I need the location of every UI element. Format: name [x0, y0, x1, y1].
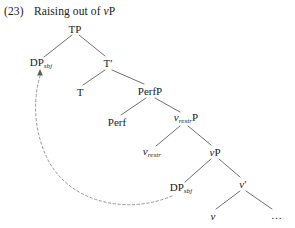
node-t: T	[77, 86, 84, 98]
branch-vp-dpsbj	[185, 159, 211, 182]
syntax-tree-diagram: TP DPsbj T′ T PerfP Perf vrestrP vrestr …	[0, 0, 295, 228]
branch-vbar-v	[216, 191, 240, 209]
node-v-bar: v′	[239, 178, 246, 190]
node-v-bar-prime: ′	[244, 178, 246, 190]
branch-perfp-perf	[121, 98, 146, 115]
node-t-label: T	[77, 86, 84, 98]
node-dp-upper-subscript: sbj	[44, 62, 52, 70]
node-v-head: v	[211, 210, 216, 222]
branch-perfp-vrestrp	[155, 98, 180, 112]
node-perfp: PerfP	[138, 85, 162, 97]
node-dp-sbj-upper: DPsbj	[30, 56, 53, 72]
node-ellipsis: …	[271, 209, 283, 221]
node-perf-label: Perf	[108, 116, 126, 128]
branch-vbar-ellipsis	[246, 191, 272, 209]
node-dp-upper-label: DP	[30, 56, 44, 68]
node-v-restr-p: vrestrP	[174, 111, 198, 127]
branch-tbar-perfp	[112, 70, 144, 84]
tree-branch-lines	[0, 0, 295, 228]
node-perfp-label: PerfP	[138, 85, 162, 97]
branch-tp-dpsbj	[44, 35, 72, 57]
node-v-restr-p-subscript: restr	[179, 117, 192, 125]
node-perf: Perf	[108, 116, 126, 128]
node-dp-sbj-lower: DPsbj	[170, 181, 193, 197]
node-vp-p: P	[214, 146, 220, 158]
branch-tp-tbar	[79, 35, 105, 56]
node-ellipsis-label: …	[271, 209, 283, 221]
node-v-restr-subscript: restr	[148, 151, 161, 159]
node-tp: TP	[69, 23, 82, 35]
node-v-head-label: v	[211, 210, 216, 222]
node-v-restr: vrestr	[143, 145, 161, 161]
node-dp-lower-subscript: sbj	[184, 187, 192, 195]
branch-vrestrp-vrestr	[156, 126, 180, 146]
node-v-restr-p-p: P	[192, 111, 198, 123]
branch-vp-vbar	[219, 159, 240, 177]
node-tp-label: TP	[69, 23, 82, 35]
node-t-bar-label: T′	[103, 57, 112, 69]
node-t-bar: T′	[103, 57, 112, 69]
branch-vrestrp-vp	[188, 126, 211, 145]
node-dp-lower-label: DP	[170, 181, 184, 193]
node-vp: vP	[209, 146, 220, 158]
branch-tbar-t	[83, 70, 105, 85]
